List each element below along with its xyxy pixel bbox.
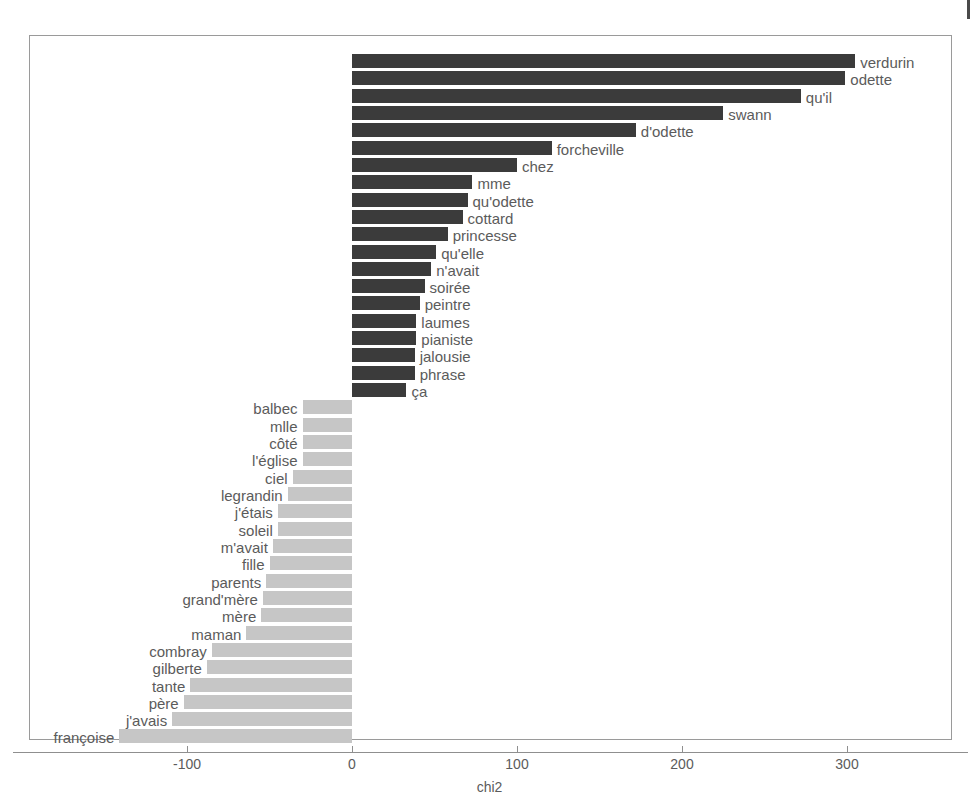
bar-label: j'avais: [0, 713, 167, 728]
bar: [172, 712, 352, 726]
bar-label: swann: [728, 107, 771, 122]
bar: [288, 487, 352, 501]
chart-figure: verdurinodettequ'ilswannd'odetteforchevi…: [0, 0, 979, 802]
bar-label: qu'il: [806, 90, 832, 105]
bar: [352, 106, 723, 120]
bar-label: n'avait: [436, 263, 479, 278]
bar-label: fille: [0, 557, 265, 572]
x-axis-title: chi2: [0, 780, 979, 795]
x-axis-tick: [847, 746, 848, 753]
bar: [352, 158, 517, 172]
bar-label: chez: [522, 159, 554, 174]
bar-label: françoise: [0, 730, 114, 745]
bar: [352, 71, 845, 85]
bar: [352, 54, 855, 68]
bar: [352, 193, 468, 207]
x-axis-tick: [187, 746, 188, 753]
bar-label: qu'elle: [441, 246, 484, 261]
bar-label: l'église: [0, 453, 298, 468]
bars-layer: verdurinodettequ'ilswannd'odetteforchevi…: [0, 0, 979, 802]
bar-label: forcheville: [557, 142, 625, 157]
bar: [352, 227, 448, 241]
bar-label: odette: [850, 72, 892, 87]
x-axis-tick-label: 100: [505, 757, 528, 772]
bar-label: d'odette: [641, 124, 694, 139]
bar-label: jalousie: [420, 349, 471, 364]
x-axis-tick-label: 0: [348, 757, 356, 772]
bar: [352, 366, 415, 380]
bar: [184, 695, 352, 709]
bar-label: phrase: [420, 367, 466, 382]
bar-label: balbec: [0, 401, 298, 416]
bar: [352, 175, 472, 189]
bar-label: parents: [0, 575, 261, 590]
bar: [352, 348, 415, 362]
bar-label: mme: [477, 176, 510, 191]
bar-label: m'avait: [0, 540, 268, 555]
bar: [278, 522, 352, 536]
bar-label: soleil: [0, 523, 273, 538]
bar-label: laumes: [421, 315, 469, 330]
bar: [352, 245, 436, 259]
bar: [352, 296, 420, 310]
bar-label: pianiste: [421, 332, 473, 347]
bar-label: legrandin: [0, 488, 283, 503]
bar: [352, 262, 431, 276]
bar: [266, 574, 352, 588]
bar-label: mlle: [0, 419, 298, 434]
bar: [293, 470, 352, 484]
bar-label: verdurin: [860, 55, 914, 70]
x-axis-line: [13, 752, 968, 753]
bar-label: mère: [0, 609, 256, 624]
bar: [352, 89, 801, 103]
x-axis-tick: [352, 746, 353, 753]
bar: [303, 452, 353, 466]
bar: [263, 591, 352, 605]
bar-label: j'étais: [0, 505, 273, 520]
bar: [352, 141, 552, 155]
x-axis-tick: [517, 746, 518, 753]
bar: [261, 608, 352, 622]
bar: [278, 504, 352, 518]
bar-label: grand'mère: [0, 592, 258, 607]
bar-label: princesse: [453, 228, 517, 243]
bar-label: qu'odette: [473, 194, 534, 209]
bar-label: soirée: [430, 280, 471, 295]
bar: [352, 383, 406, 397]
bar: [212, 643, 352, 657]
bar: [119, 729, 352, 743]
bar: [270, 556, 353, 570]
bar-label: ça: [411, 384, 427, 399]
bar-label: tante: [0, 679, 185, 694]
bar: [246, 626, 352, 640]
bar-label: cottard: [468, 211, 514, 226]
bar: [207, 660, 352, 674]
bar: [303, 400, 353, 414]
bar: [352, 210, 463, 224]
bar-label: gilberte: [0, 661, 202, 676]
bar: [190, 678, 352, 692]
bar: [352, 331, 416, 345]
bar-label: côté: [0, 436, 298, 451]
x-axis-tick: [682, 746, 683, 753]
bar: [303, 435, 353, 449]
bar: [352, 123, 636, 137]
bar-label: peintre: [425, 297, 471, 312]
bar-label: maman: [0, 627, 241, 642]
bar: [352, 314, 416, 328]
x-axis-tick-label: 300: [835, 757, 858, 772]
bar-label: ciel: [0, 471, 288, 486]
bar: [273, 539, 352, 553]
bar: [303, 418, 353, 432]
x-axis-tick-label: 200: [670, 757, 693, 772]
x-axis-tick-label: -100: [173, 757, 201, 772]
bar-label: père: [0, 696, 179, 711]
bar-label: combray: [0, 644, 207, 659]
bar: [352, 279, 425, 293]
